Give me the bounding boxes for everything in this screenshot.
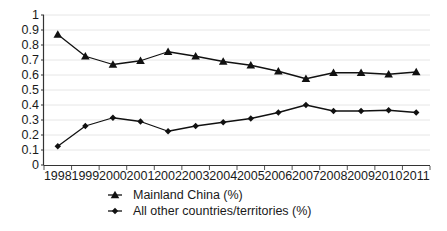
x-tick-labels: 1998199920002001200220032004200520062007… bbox=[44, 169, 430, 183]
x-tick-label: 2009 bbox=[347, 169, 375, 183]
y-tick-label: 0.4 bbox=[22, 98, 39, 112]
x-tick-label: 2003 bbox=[182, 169, 210, 183]
y-tick-label: 1 bbox=[32, 8, 39, 22]
y-tick-label: 0.7 bbox=[22, 53, 39, 67]
x-tick-label: 2005 bbox=[237, 169, 265, 183]
x-tick-label: 2008 bbox=[320, 169, 348, 183]
x-tick-label: 2001 bbox=[127, 169, 155, 183]
y-tick-label: 0.5 bbox=[22, 83, 39, 97]
x-tick-label: 2010 bbox=[375, 169, 403, 183]
y-tick-label: 0.1 bbox=[22, 143, 39, 157]
x-tick-label: 2011 bbox=[403, 169, 430, 183]
x-tick-label: 2000 bbox=[99, 169, 127, 183]
chart-figure: 00.10.20.30.40.50.60.70.80.91 1998199920… bbox=[0, 0, 447, 231]
x-tick-label: 2002 bbox=[154, 169, 182, 183]
legend-label: All other countries/territories (%) bbox=[133, 204, 312, 218]
legend-label: Mainland China (%) bbox=[133, 188, 243, 202]
line-chart: 00.10.20.30.40.50.60.70.80.91 1998199920… bbox=[0, 0, 447, 231]
y-tick-label: 0 bbox=[32, 158, 39, 172]
x-tick-label: 2007 bbox=[292, 169, 320, 183]
y-tick-label: 0.2 bbox=[22, 128, 39, 142]
y-tick-label: 0.3 bbox=[22, 113, 39, 127]
x-tick-label: 2006 bbox=[264, 169, 292, 183]
x-tick-label: 2004 bbox=[209, 169, 237, 183]
y-tick-label: 0.6 bbox=[22, 68, 39, 82]
x-tick-label: 1999 bbox=[71, 169, 99, 183]
y-tick-label: 0.8 bbox=[22, 38, 39, 52]
x-tick-label: 1998 bbox=[44, 169, 72, 183]
y-tick-label: 0.9 bbox=[22, 23, 39, 37]
